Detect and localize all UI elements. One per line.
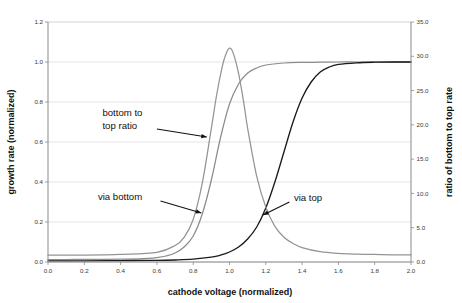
x-axis-title: cathode voltage (normalized) bbox=[168, 287, 293, 297]
x-tick-label: 2.0 bbox=[407, 267, 416, 274]
x-tick-label: 0.8 bbox=[189, 267, 198, 274]
y2-axis-title: ratio of bottom to top rate bbox=[444, 87, 454, 197]
y2-tick-label: 5.0 bbox=[417, 224, 426, 231]
y2-tick-label: 20.0 bbox=[417, 121, 430, 128]
y2-tick-label: 35.0 bbox=[417, 18, 430, 25]
chart-container: 0.00.20.40.60.81.01.20.05.010.015.020.02… bbox=[0, 0, 462, 303]
y-tick-label: 0.2 bbox=[34, 218, 43, 225]
x-tick-label: 1.6 bbox=[334, 267, 343, 274]
y2-tick-label: 15.0 bbox=[417, 155, 430, 162]
y2-tick-label: 10.0 bbox=[417, 190, 430, 197]
growth-rate-vs-cathode-voltage-chart: 0.00.20.40.60.81.01.20.05.010.015.020.02… bbox=[0, 0, 462, 303]
x-tick-label: 1.2 bbox=[261, 267, 270, 274]
x-tick-label: 1.0 bbox=[225, 267, 234, 274]
x-tick-label: 0.0 bbox=[44, 267, 53, 274]
y-tick-label: 0.6 bbox=[34, 138, 43, 145]
y-tick-label: 0.8 bbox=[34, 98, 43, 105]
x-tick-label: 0.4 bbox=[116, 267, 125, 274]
chart-background bbox=[0, 0, 462, 303]
annot-ratio-label: bottom to bbox=[102, 107, 142, 118]
y-tick-label: 0.0 bbox=[34, 258, 43, 265]
annot-via-bottom-label: via bottom bbox=[98, 191, 142, 202]
y2-tick-label: 0.0 bbox=[417, 258, 426, 265]
y-tick-label: 0.4 bbox=[34, 178, 43, 185]
y-axis-title: growth rate (normalized) bbox=[6, 89, 16, 194]
x-tick-label: 1.4 bbox=[298, 267, 307, 274]
y-tick-label: 1.2 bbox=[34, 18, 43, 25]
x-tick-label: 1.8 bbox=[370, 267, 379, 274]
y2-tick-label: 30.0 bbox=[417, 52, 430, 59]
y2-tick-label: 25.0 bbox=[417, 87, 430, 94]
x-tick-label: 0.2 bbox=[80, 267, 89, 274]
x-tick-label: 0.6 bbox=[153, 267, 162, 274]
annot-via-top-label: via top bbox=[294, 192, 322, 203]
annot-ratio-label: top ratio bbox=[102, 120, 137, 131]
y-tick-label: 1.0 bbox=[34, 58, 43, 65]
